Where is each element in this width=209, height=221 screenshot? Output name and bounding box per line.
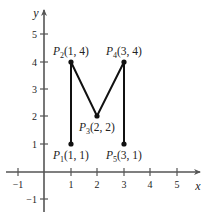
label-p1-coords: (1, 1) (64, 149, 89, 162)
label-p5-coords: (3, 1) (117, 149, 142, 162)
x-axis-label: x (194, 179, 201, 193)
x-tick-label: 1 (69, 179, 74, 190)
label-p2-letter: P (52, 45, 60, 57)
y-tick-label: 1 (32, 139, 37, 150)
y-tick-label: 5 (32, 29, 37, 40)
point-p3 (94, 113, 99, 118)
label-p5-letter: P (105, 149, 113, 161)
x-tick-label: −1 (13, 179, 24, 190)
y-tick-label: −1 (26, 194, 37, 205)
label-p1-letter: P (52, 149, 60, 161)
label-p3-letter: P (78, 121, 86, 133)
point-p4 (121, 59, 126, 64)
y-tick-label: 2 (32, 111, 37, 122)
point-p1 (68, 141, 73, 146)
label-p4: P4(3, 4) (105, 45, 142, 60)
label-p2: P2(1, 4) (52, 45, 89, 60)
x-tick-label: 3 (122, 179, 127, 190)
point-p2 (68, 59, 73, 64)
plot-svg: −1 1 2 3 4 5 5 4 3 2 1 −1 x y P1(1, 1) P… (0, 0, 209, 221)
x-tick-label: 2 (95, 179, 100, 190)
coordinate-plane-figure: −1 1 2 3 4 5 5 4 3 2 1 −1 x y P1(1, 1) P… (0, 0, 209, 221)
label-p3: P3(2, 2) (78, 121, 115, 136)
y-tick-label: 3 (32, 84, 37, 95)
x-tick-label: 4 (148, 179, 153, 190)
label-p2-coords: (1, 4) (64, 45, 89, 58)
point-p5 (121, 141, 126, 146)
label-p3-coords: (2, 2) (90, 121, 115, 134)
label-p4-coords: (3, 4) (117, 45, 142, 58)
label-p5: P5(3, 1) (105, 149, 142, 164)
label-p1: P1(1, 1) (52, 149, 89, 164)
x-tick-label: 5 (175, 179, 180, 190)
y-axis-label: y (32, 6, 39, 20)
label-p4-letter: P (105, 45, 113, 57)
y-tick-label: 4 (32, 57, 37, 68)
